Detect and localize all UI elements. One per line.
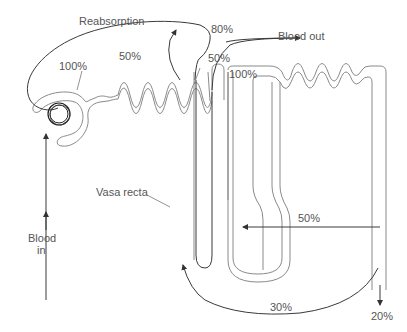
- inner-loop: [228, 64, 386, 291]
- label-reabsorption: Reabsorption: [79, 15, 144, 27]
- nephron-diagram: Reabsorption 50% 100% 80% Blood out 50% …: [0, 0, 407, 332]
- label-pct-collecting: 50%: [298, 212, 320, 224]
- leader-100: [77, 71, 82, 90]
- label-vasa-recta: Vasa recta: [96, 186, 149, 198]
- label-pct-loop-top: 50%: [208, 52, 230, 64]
- label-blood-in-1: Blood: [28, 232, 56, 244]
- glomerulus: [48, 103, 70, 125]
- label-pct-distal: 100%: [229, 68, 257, 80]
- label-blood-out: Blood out: [278, 30, 324, 42]
- label-pct-blood-out: 80%: [211, 23, 233, 35]
- proximal-tubule: [118, 83, 212, 114]
- label-pct-bottom: 30%: [270, 301, 292, 313]
- leader-vasa-recta: [147, 195, 170, 207]
- reabsorption-arrow: [169, 30, 180, 80]
- label-pct-excreted: 20%: [371, 310, 393, 322]
- label-pct-glomerulus: 100%: [59, 60, 87, 72]
- label-pct-reabsorption: 50%: [119, 50, 141, 62]
- label-blood-in-2: in: [37, 244, 46, 256]
